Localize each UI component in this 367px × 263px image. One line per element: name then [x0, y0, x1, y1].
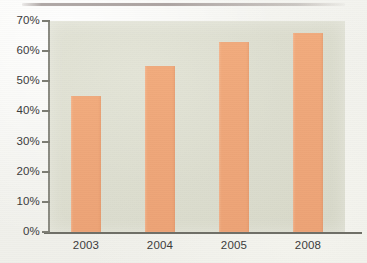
- bar-chart: 0%10%20%30%40%50%60%70% 2003200420052008: [0, 0, 367, 263]
- y-axis-tick: [42, 80, 50, 82]
- y-axis-tick-label: 60%: [0, 45, 40, 57]
- y-axis-tick-label: 20%: [0, 166, 40, 178]
- x-axis-line: [44, 232, 362, 234]
- x-axis-label-2005: 2005: [204, 239, 264, 251]
- y-axis-tick-label: 30%: [0, 136, 40, 148]
- x-axis-label-2003: 2003: [56, 239, 116, 251]
- y-axis-labels: 0%10%20%30%40%50%60%70%: [0, 0, 40, 263]
- y-axis-tick-label: 70%: [0, 15, 40, 27]
- y-axis-tick: [42, 231, 50, 233]
- x-axis-label-2004: 2004: [130, 239, 190, 251]
- y-axis-tick: [42, 110, 50, 112]
- y-axis-tick: [42, 201, 50, 203]
- y-axis-tick-label: 0%: [0, 226, 40, 238]
- bar-2008: [293, 33, 323, 232]
- x-axis-label-2008: 2008: [278, 239, 338, 251]
- y-axis-tick-label: 10%: [0, 196, 40, 208]
- y-axis-tick-label: 40%: [0, 105, 40, 117]
- bar-2004: [145, 66, 175, 232]
- y-axis-tick: [42, 141, 50, 143]
- y-axis-tick: [42, 171, 50, 173]
- y-axis-tick: [42, 20, 50, 22]
- bar-2003: [71, 96, 101, 232]
- y-axis-tick: [42, 50, 50, 52]
- y-axis-tick-label: 50%: [0, 75, 40, 87]
- bar-2005: [219, 42, 249, 232]
